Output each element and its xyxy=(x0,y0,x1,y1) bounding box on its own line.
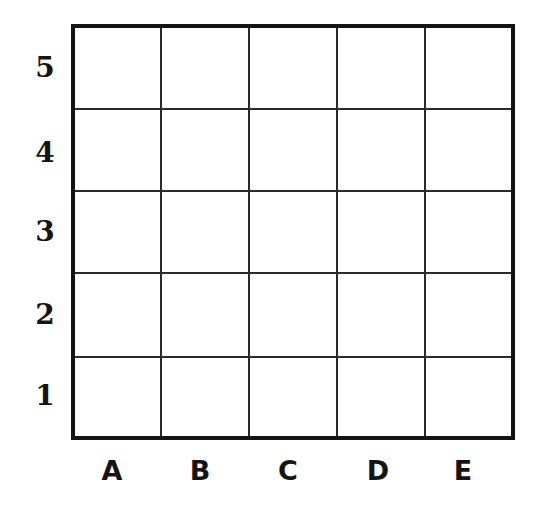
row-label-2: 2 xyxy=(30,301,60,329)
col-label-e: E xyxy=(443,457,483,484)
row-label-3: 3 xyxy=(30,218,60,246)
col-label-b: B xyxy=(180,457,220,484)
grid-vertical-line xyxy=(160,28,162,436)
grid-horizontal-line xyxy=(75,108,511,110)
row-label-5: 5 xyxy=(30,54,60,82)
row-label-1: 1 xyxy=(30,382,60,410)
row-label-4: 4 xyxy=(30,139,60,167)
grid-vertical-line xyxy=(424,28,426,436)
grid-board xyxy=(71,24,515,440)
grid-horizontal-line xyxy=(75,272,511,274)
col-label-d: D xyxy=(358,457,398,484)
grid-vertical-line xyxy=(336,28,338,436)
grid-vertical-line xyxy=(248,28,250,436)
grid-horizontal-line xyxy=(75,356,511,358)
grid-horizontal-line xyxy=(75,190,511,192)
col-label-a: A xyxy=(92,457,132,484)
col-label-c: C xyxy=(268,457,308,484)
